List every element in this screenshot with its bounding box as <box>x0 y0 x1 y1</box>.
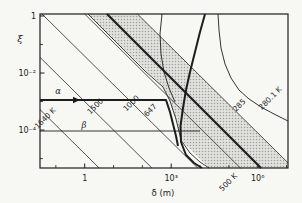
x-tick-label: 1 <box>82 174 87 183</box>
annotation-beta: β <box>81 120 87 130</box>
y-tick-label: 10⁻⁴ <box>18 126 36 135</box>
y-axis-title: ξ <box>17 33 23 44</box>
temperature-regime-chart: 110³10⁶110⁻²10⁻⁴1640 K15001000500 K28564… <box>0 0 302 203</box>
x-tick-label: 10³ <box>165 174 178 183</box>
annotation-alpha: α <box>55 86 61 96</box>
y-tick-label: 10⁻² <box>18 69 36 78</box>
y-tick-label: 1 <box>31 12 36 21</box>
scanned-figure-page: 110³10⁶110⁻²10⁻⁴1640 K15001000500 K28564… <box>0 0 302 203</box>
x-axis-title: δ (m) <box>152 188 175 198</box>
x-tick-label: 10⁶ <box>251 174 264 183</box>
